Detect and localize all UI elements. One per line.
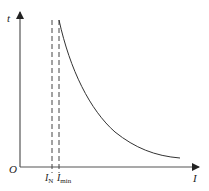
diagram-canvas: t O I IN Imin <box>0 0 209 191</box>
x-axis-label: I <box>192 172 198 184</box>
marker-label-imin: Imin <box>56 172 72 185</box>
y-axis-label: t <box>7 12 11 24</box>
origin-label: O <box>9 163 17 175</box>
characteristic-curve <box>59 20 180 158</box>
marker-label-in: IN <box>44 172 53 185</box>
